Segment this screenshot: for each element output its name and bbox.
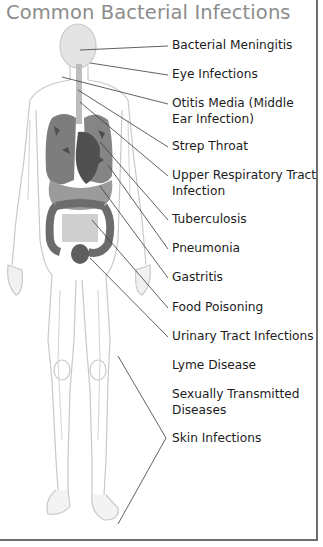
infection-label: Food Poisoning bbox=[172, 300, 317, 316]
infection-label: Sexually Transmitted Diseases bbox=[172, 387, 317, 418]
infection-label: Urinary Tract Infections bbox=[172, 329, 317, 345]
infection-label: Eye Infections bbox=[172, 67, 317, 83]
infection-label: Bacterial Meningitis bbox=[172, 38, 317, 54]
infection-label: Upper Respiratory Tract Infection bbox=[172, 168, 317, 199]
infection-label: Gastritis bbox=[172, 270, 317, 286]
intestines bbox=[50, 203, 111, 264]
trachea bbox=[76, 64, 82, 124]
bladder bbox=[71, 244, 89, 264]
infection-label: Lyme Disease bbox=[172, 358, 317, 374]
infection-label: Skin Infections bbox=[172, 431, 317, 447]
infection-label: Strep Throat bbox=[172, 139, 317, 155]
infection-label: Otitis Media (Middle Ear Infection) bbox=[172, 96, 317, 127]
infection-label: Tuberculosis bbox=[172, 212, 317, 228]
infection-label: Pneumonia bbox=[172, 241, 317, 257]
